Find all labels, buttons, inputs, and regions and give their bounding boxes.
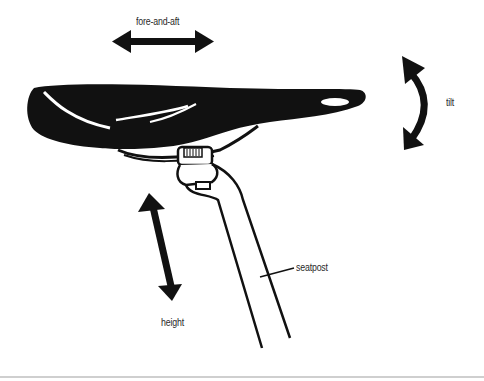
- fore-and-aft-label: fore-and-aft: [136, 16, 179, 27]
- tilt-label: tilt: [446, 97, 454, 108]
- seatpost-label: seatpost: [296, 262, 328, 273]
- seat-clamp-icon: [178, 147, 218, 189]
- tilt-arrow-icon: [402, 56, 425, 150]
- fore-and-aft-arrow-icon: [112, 30, 214, 53]
- height-label: height: [161, 317, 184, 328]
- height-arrow-icon: [138, 193, 182, 301]
- bottom-divider: [0, 376, 484, 378]
- saddle-adjustment-diagram: fore-and-aft tilt seatpost height: [0, 0, 484, 381]
- seatpost-icon: [186, 164, 294, 348]
- diagram-illustration: [0, 0, 484, 381]
